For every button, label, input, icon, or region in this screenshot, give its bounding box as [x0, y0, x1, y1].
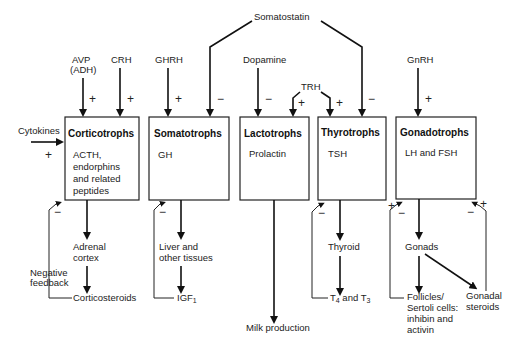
somato-feedback-minus: − — [159, 205, 166, 219]
negative-feedback-label-2: feedback — [30, 277, 69, 288]
lactotrophs-product: Prolactin — [249, 148, 286, 159]
dopamine-label: Dopamine — [243, 54, 286, 65]
trh-plus-sign-2: + — [336, 96, 343, 110]
avp-plus-sign: + — [89, 92, 96, 106]
thyroid-label: Thyroid — [328, 241, 360, 252]
follicles-label-3: inhibin and — [407, 313, 453, 324]
gnrh-label: GnRH — [407, 54, 434, 65]
steroid-feedback-minus: − — [467, 205, 474, 219]
ghrh-plus-sign: + — [175, 92, 182, 106]
lactotrophs-title: Lactotrophs — [244, 128, 302, 139]
follicles-label-4: activin — [407, 324, 434, 335]
thyrotrophs-box: Thyrotrophs TSH — [318, 117, 386, 200]
gonads-label: Gonads — [405, 241, 439, 252]
liver-label-2: other tissues — [159, 252, 213, 263]
steroid-feedback-plus: + — [480, 197, 487, 211]
lactotrophs-box: Lactotrophs Prolactin — [240, 117, 309, 200]
thyrotrophs-title: Thyrotrophs — [321, 127, 380, 138]
crh-plus-sign: + — [127, 92, 134, 106]
gonads-to-steroids-arrow — [425, 254, 474, 287]
adh-label: (ADH) — [70, 64, 96, 75]
corticosteroids-label: Corticosteroids — [73, 292, 137, 303]
liver-label-1: Liver and — [159, 241, 198, 252]
somatostatin-label: Somatostatin — [254, 11, 309, 22]
igf-label: IGF1 — [177, 292, 197, 304]
adrenal-label-2: cortex — [73, 252, 99, 263]
trh-to-thyrotrophs-arrow — [321, 92, 330, 113]
pituitary-diagram: Somatostatin AVP (ADH) CRH GHRH Dopamine… — [0, 0, 519, 349]
dopamine-minus-sign: − — [265, 92, 272, 106]
follicles-label-1: Follicles/ — [407, 291, 444, 302]
cytokines-plus-sign: + — [45, 148, 52, 162]
corticotrophs-product-2: endorphins — [73, 161, 120, 172]
t4-t3-label: T4 and T3 — [330, 292, 370, 304]
somatotrophs-box: Somatotrophs GH — [149, 117, 229, 200]
gonadotrophs-product: LH and FSH — [405, 147, 457, 158]
cytokines-label: Cytokines — [18, 125, 60, 136]
gonadotrophs-title: Gonadotrophs — [400, 127, 469, 138]
adrenal-label-1: Adrenal — [73, 241, 106, 252]
corticotrophs-box: Corticotrophs ACTH, endorphins and relat… — [65, 117, 139, 200]
corticotrophs-product-1: ACTH, — [73, 149, 102, 160]
follicle-feedback-plus: + — [388, 199, 395, 213]
corticotrophs-product-3: and related — [73, 173, 121, 184]
corticotrophs-product-4: peptides — [73, 185, 109, 196]
gonadal-steroids-label-2: steroids — [466, 301, 500, 312]
cortico-feedback-minus: − — [54, 205, 61, 219]
trh-plus-sign-1: + — [298, 96, 305, 110]
trh-label: TRH — [301, 81, 321, 92]
gonadotrophs-box: Gonadotrophs LH and FSH — [396, 117, 476, 199]
steroid-feedback-line — [474, 203, 486, 291]
gonadal-steroids-label-1: Gonadal — [466, 290, 502, 301]
crh-label: CRH — [111, 54, 132, 65]
ghrh-label: GHRH — [155, 54, 183, 65]
corticotrophs-title: Corticotrophs — [68, 128, 135, 139]
gnrh-plus-sign: + — [425, 92, 432, 106]
thyro-feedback-minus: − — [318, 206, 325, 220]
somatostatin-minus-sign-2: − — [368, 92, 375, 106]
milk-production-label: Milk production — [246, 322, 310, 333]
follicle-feedback-minus: − — [398, 206, 405, 220]
somatotrophs-product: GH — [158, 149, 172, 160]
somatostatin-minus-sign: − — [217, 92, 224, 106]
somatotrophs-title: Somatotrophs — [154, 128, 222, 139]
follicles-label-2: Sertoli cells: — [407, 302, 458, 313]
thyrotrophs-product: TSH — [328, 148, 347, 159]
